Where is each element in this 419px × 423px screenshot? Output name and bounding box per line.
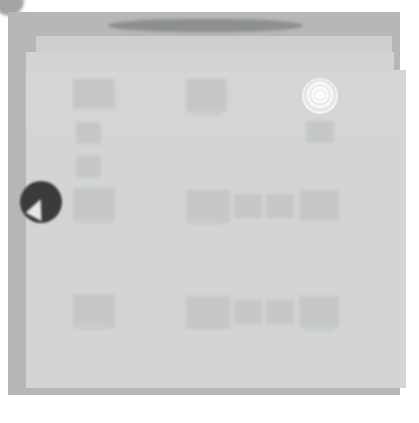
- block-col1-row3[interactable]: [76, 155, 101, 177]
- block-col1-row5-tab[interactable]: [78, 322, 110, 329]
- block-col2-row1-tab[interactable]: [192, 110, 221, 116]
- block-col4-row5[interactable]: [266, 300, 294, 324]
- block-col1-row1[interactable]: [73, 79, 115, 109]
- window-titlebar[interactable]: [108, 19, 303, 32]
- radial-glow-icon[interactable]: [302, 78, 338, 114]
- block-col5-row4[interactable]: [299, 190, 339, 221]
- block-col5-row5-tab[interactable]: [305, 325, 334, 331]
- block-col3-row5[interactable]: [234, 300, 262, 324]
- block-col1-row4-tab[interactable]: [78, 216, 110, 223]
- screenshot-canvas: [0, 0, 419, 423]
- block-col6-row2[interactable]: [306, 121, 334, 143]
- block-col3-row4[interactable]: [234, 194, 262, 218]
- cursor-marker[interactable]: [20, 181, 62, 223]
- block-col2-row1[interactable]: [186, 79, 227, 112]
- block-col4-row4[interactable]: [266, 194, 294, 218]
- block-col2-row5[interactable]: [186, 296, 230, 329]
- block-col2-row4-tab[interactable]: [192, 218, 221, 224]
- block-col1-row2[interactable]: [76, 122, 101, 144]
- block-col5-row5[interactable]: [299, 296, 339, 327]
